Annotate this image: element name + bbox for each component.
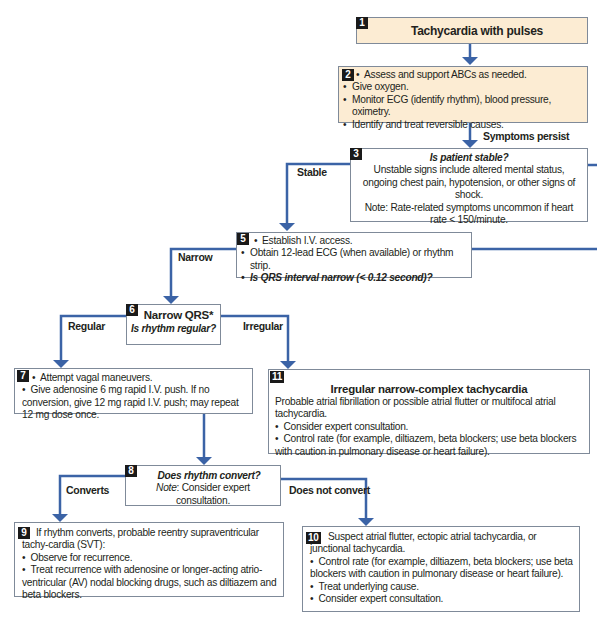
box-title: Irregular narrow-complex tachycardia <box>275 382 583 396</box>
label-irregular: Irregular <box>243 320 283 332</box>
box-6-narrow-qrs: 6 Narrow QRS* Is rhythm regular? <box>126 304 221 345</box>
box-5-establish-iv: 5 • Establish I.V. access. Obtain 12-lea… <box>236 232 472 278</box>
step-badge: 1 <box>356 17 368 29</box>
box-subtitle: Is rhythm regular? <box>131 323 216 335</box>
list-item: Obtain 12-lead ECG (when available) or r… <box>240 247 465 272</box>
label-symptoms-persist: Symptoms persist <box>483 130 569 142</box>
list-item: • Give adenosine 6 mg rapid I.V. push. I… <box>18 384 246 421</box>
label-narrow: Narrow <box>178 251 212 263</box>
list-item: Is QRS interval narrow (< 0.12 second)? <box>240 272 465 284</box>
list-item: 5 • Establish I.V. access. <box>240 235 465 247</box>
box-7-vagal-adenosine: 7 • Attempt vagal maneuvers. • Give aden… <box>14 368 253 414</box>
list-item: Give oxygen. <box>342 81 581 93</box>
step-badge: 3 <box>350 148 362 160</box>
step-badge: 9 <box>18 527 30 539</box>
step-badge: 6 <box>126 304 138 316</box>
list-item: • Observe for recurrence. <box>22 552 277 564</box>
box-text: If rhythm converts, probable reentry sup… <box>22 527 277 552</box>
list-item: 2 • Assess and support ABCs as needed. <box>342 69 581 81</box>
list-item: • Control rate (for example, diltiazem, … <box>275 433 583 458</box>
box-text: Unstable signs include altered mental st… <box>359 164 579 201</box>
box-9-svt: 9 If rhythm converts, probable reentry s… <box>14 522 284 597</box>
list-item: • Consider expert consultation. <box>275 421 583 433</box>
step-badge: 7 <box>17 370 29 382</box>
box-text: Probable atrial fibrillation or possible… <box>275 396 583 421</box>
step-badge: 8 <box>125 465 137 477</box>
box-1-tachycardia-with-pulses: 1 Tachycardia with pulses <box>356 17 588 44</box>
list-item: • Control rate (for example, diltiazem, … <box>310 556 573 581</box>
box-text: Suspect atrial flutter, ectopic atrial t… <box>310 531 573 556</box>
box-3-is-patient-stable: 3 Is patient stable? Unstable signs incl… <box>350 148 588 222</box>
list-item: Monitor ECG (identify rhythm), blood pre… <box>342 94 581 119</box>
list-item: 7 • Attempt vagal maneuvers. <box>18 372 246 384</box>
box-note: Note: Rate-related symptoms uncommon if … <box>359 202 579 227</box>
label-stable: Stable <box>297 166 327 178</box>
box-8-does-rhythm-convert: 8 Does rhythm convert? Note: Consider ex… <box>125 465 281 506</box>
step-badge: 5 <box>237 233 249 245</box>
list-item: • Treat underlying cause. <box>310 581 573 593</box>
box-2-assess: 2 • Assess and support ABCs as needed. G… <box>338 66 588 123</box>
step-badge: 11 <box>270 371 284 383</box>
label-converts: Converts <box>66 484 109 496</box>
box-11-irregular-narrow-complex: 11 Irregular narrow-complex tachycardia … <box>268 369 590 454</box>
box-title: Tachycardia with pulses <box>357 18 587 44</box>
step-badge: 10 <box>306 532 321 544</box>
box-title: Is patient stable? <box>359 152 579 164</box>
step-badge: 2 <box>342 69 354 81</box>
box-10-atrial-flutter: 10 Suspect atrial flutter, ectopic atria… <box>302 526 580 612</box>
box-title: Narrow QRS* <box>131 307 216 323</box>
box-title: Does rhythm convert? <box>130 470 276 482</box>
list-item: • Treat recurrence with adenosine or lon… <box>22 564 277 601</box>
label-regular: Regular <box>68 320 105 332</box>
list-item: • Consider expert consultation. <box>310 593 573 605</box>
box-note: Note: Consider expert consultation. <box>130 482 276 507</box>
label-does-not-convert: Does not convert <box>289 484 370 496</box>
